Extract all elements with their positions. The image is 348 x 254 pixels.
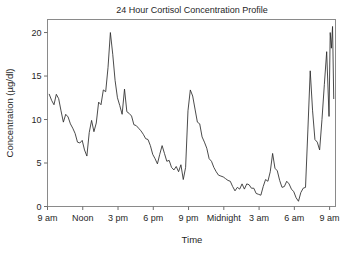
y-tick-label: 0 <box>36 202 41 212</box>
x-tick-label: Midnight <box>207 213 242 223</box>
x-tick-label: 3 am <box>249 213 269 223</box>
y-tick-label: 15 <box>31 71 41 81</box>
x-tick-label: 9 pm <box>179 213 199 223</box>
x-tick-label: 3 pm <box>108 213 128 223</box>
cortisol-chart-figure: 24 Hour Cortisol Concentration Profile 0… <box>0 0 348 254</box>
chart-title: 24 Hour Cortisol Concentration Profile <box>116 5 268 15</box>
y-tick-label: 5 <box>36 158 41 168</box>
x-axis-ticks: 9 amNoon3 pm6 pm9 pmMidnight3 am6 am9 am <box>37 207 339 223</box>
x-tick-label: 9 am <box>37 213 57 223</box>
x-tick-label: 6 am <box>284 213 304 223</box>
y-tick-label: 20 <box>31 28 41 38</box>
x-tick-label: 6 pm <box>143 213 163 223</box>
x-tick-label: 9 am <box>320 213 340 223</box>
x-tick-label: Noon <box>72 213 94 223</box>
y-axis-label: Concentration (µg/dl) <box>4 69 15 158</box>
chart-canvas: 24 Hour Cortisol Concentration Profile 0… <box>0 0 348 254</box>
x-axis-label: Time <box>182 234 203 245</box>
y-tick-label: 10 <box>31 115 41 125</box>
